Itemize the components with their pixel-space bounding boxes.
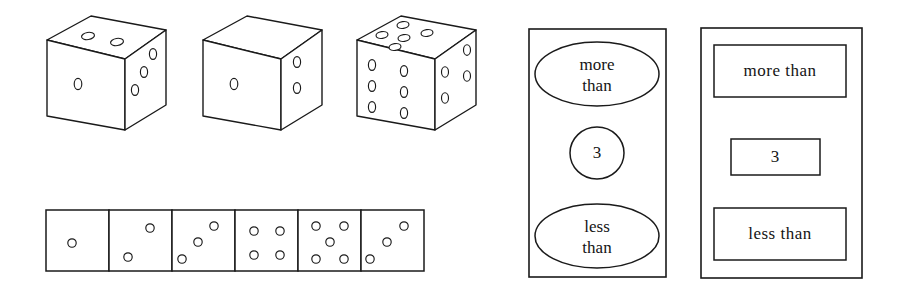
flat-face-pip (68, 239, 76, 247)
die-3-front-pip (400, 108, 407, 119)
oval-more-than-line2: than (582, 76, 612, 95)
oval-number-label: 3 (593, 143, 602, 162)
flat-face-pip (194, 238, 202, 246)
oval-less-than-line2: than (582, 238, 612, 257)
flat-faces-strip (46, 210, 424, 271)
flat-face-pip (276, 227, 284, 235)
die-1-right-pip (140, 67, 147, 78)
die-3-right-pip (464, 45, 471, 56)
die-1 (47, 16, 166, 130)
die-3 (357, 16, 476, 130)
die-3-right-pip (442, 93, 449, 104)
oval-less-than-line1: less (584, 217, 610, 236)
die-3-right-pip (442, 67, 449, 78)
flat-face-pip (340, 255, 348, 263)
rect-less-than-label: less than (748, 224, 812, 243)
oval-more-than[interactable] (535, 42, 659, 106)
die-3-front-pip (400, 66, 407, 77)
flat-face-pip (250, 227, 258, 235)
die-1-right-pip (131, 85, 138, 96)
die-1-right-pip (149, 49, 156, 60)
flat-face-pip (312, 222, 320, 230)
comparison-card-ovals[interactable]: more than 3 less than (529, 29, 666, 277)
flat-face-square (46, 210, 109, 271)
flat-face-pip (178, 255, 186, 263)
flat-face-square (235, 210, 298, 271)
flat-face-pip (210, 222, 218, 230)
die-2 (203, 16, 322, 130)
flat-face-pip (400, 222, 408, 230)
flat-face-pip (312, 255, 320, 263)
oval-less-than[interactable] (535, 204, 659, 268)
flat-face-pip (340, 222, 348, 230)
die-2-front-pip (230, 78, 238, 89)
comparison-card-rectangles[interactable]: more than 3 less than (701, 28, 862, 278)
flat-face-pip (276, 251, 284, 259)
die-1-front-pip (74, 78, 82, 89)
flat-face-pip (326, 238, 334, 246)
flat-face-pip (146, 224, 154, 232)
flat-face-square (109, 210, 172, 271)
die-3-front-pip (368, 102, 375, 113)
die-2-right-pip (293, 57, 300, 68)
flat-face-pip (250, 251, 258, 259)
oval-more-than-line1: more (580, 55, 615, 74)
flat-face-pip (124, 253, 132, 261)
die-3-front-pip (400, 87, 407, 98)
die-2-right-pip (293, 83, 300, 94)
rect-more-than-label: more than (744, 61, 817, 80)
flat-face-pip (383, 238, 391, 246)
rect-number-label: 3 (771, 147, 780, 166)
flat-face-pip (366, 255, 374, 263)
die-3-front-pip (368, 81, 375, 92)
die-3-right-pip (464, 71, 471, 82)
die-3-front-pip (368, 60, 375, 71)
figure-canvas: more than 3 less than more than 3 less t… (0, 0, 904, 300)
